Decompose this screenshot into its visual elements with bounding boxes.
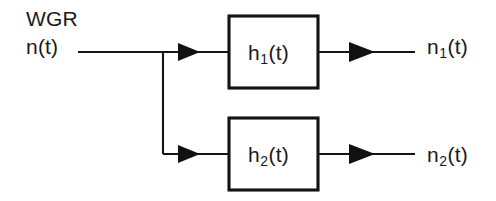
block-h1-label: h1(t) <box>248 42 289 63</box>
input-signal-text: n(t) <box>26 35 58 58</box>
source-name-label: WGR <box>26 8 78 29</box>
diagram-vector-layer <box>0 0 496 201</box>
output-n2-suffix: (t) <box>447 143 467 166</box>
output-n1-base: n <box>427 35 439 58</box>
block-h2-subscript: 2 <box>260 153 269 169</box>
block-h2-base: h <box>248 143 260 166</box>
block-h2-suffix: (t) <box>268 143 288 166</box>
output-n1-subscript: 1 <box>439 45 448 61</box>
block-h1-base: h <box>248 41 260 64</box>
arrowhead-into-h2 <box>178 145 200 163</box>
output-n1-suffix: (t) <box>447 35 467 58</box>
output-n1-label: n1(t) <box>427 36 468 57</box>
output-n2-base: n <box>427 143 439 166</box>
arrowhead-output-n2 <box>349 144 375 164</box>
block-h1-subscript: 1 <box>260 51 269 67</box>
block-diagram-canvas: WGR n(t) h1(t) h2(t) n1(t) n2(t) <box>0 0 496 201</box>
block-h1-suffix: (t) <box>268 41 288 64</box>
block-h2-label: h2(t) <box>248 144 289 165</box>
arrowhead-into-h1 <box>178 43 200 61</box>
output-n2-subscript: 2 <box>439 153 448 169</box>
arrowhead-output-n1 <box>349 42 375 62</box>
input-signal-label: n(t) <box>26 36 58 57</box>
output-n2-label: n2(t) <box>427 144 468 165</box>
